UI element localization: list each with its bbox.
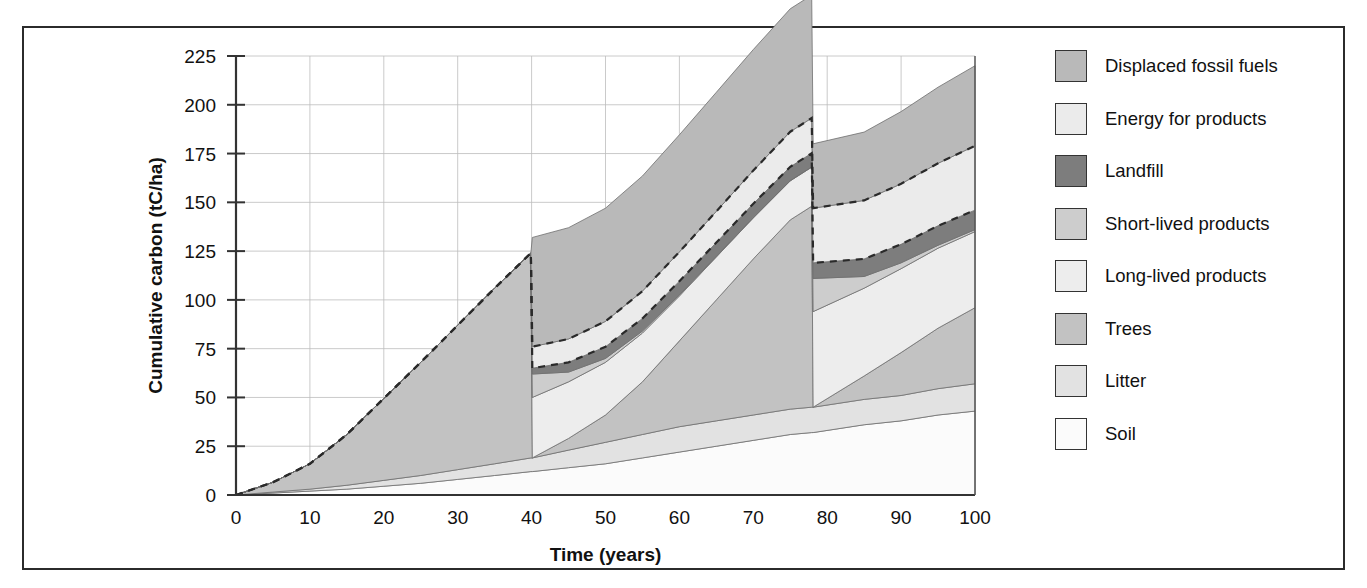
x-tick-label: 30 xyxy=(447,507,468,528)
x-tick-label: 70 xyxy=(743,507,764,528)
legend-swatch-soil xyxy=(1055,418,1087,450)
x-axis-title: Time (years) xyxy=(550,544,662,565)
legend-item[interactable]: Landfill xyxy=(1055,145,1345,198)
x-tick-label: 40 xyxy=(521,507,542,528)
y-tick-label: 100 xyxy=(184,290,216,311)
x-tick-label: 80 xyxy=(817,507,838,528)
y-tick-label: 125 xyxy=(184,241,216,262)
legend-swatch-energy-for-products xyxy=(1055,103,1087,135)
legend-label-short-lived-products: Short-lived products xyxy=(1105,213,1270,235)
y-tick-label: 200 xyxy=(184,95,216,116)
legend-swatch-short-lived-products xyxy=(1055,208,1087,240)
legend-item[interactable]: Long-lived products xyxy=(1055,250,1345,303)
x-tick-label: 0 xyxy=(231,507,242,528)
y-tick-label: 175 xyxy=(184,144,216,165)
legend-label-litter: Litter xyxy=(1105,370,1146,392)
legend-item[interactable]: Displaced fossil fuels xyxy=(1055,40,1345,93)
x-tick-label: 20 xyxy=(373,507,394,528)
y-tick-label: 25 xyxy=(195,436,216,457)
legend-swatch-displaced-fossil-fuels xyxy=(1055,50,1087,82)
legend-swatch-litter xyxy=(1055,365,1087,397)
legend-label-energy-for-products: Energy for products xyxy=(1105,108,1266,130)
legend-label-displaced-fossil-fuels: Displaced fossil fuels xyxy=(1105,55,1278,77)
legend-label-long-lived-products: Long-lived products xyxy=(1105,265,1266,287)
legend-item[interactable]: Litter xyxy=(1055,355,1345,408)
legend-label-landfill: Landfill xyxy=(1105,160,1164,182)
y-axis-title: Cumulative carbon (tC/ha) xyxy=(145,157,166,393)
x-tick-label: 10 xyxy=(299,507,320,528)
y-tick-label: 225 xyxy=(184,46,216,67)
y-tick-label: 150 xyxy=(184,192,216,213)
legend-item[interactable]: Energy for products xyxy=(1055,93,1345,146)
legend-swatch-landfill xyxy=(1055,155,1087,187)
legend-item[interactable]: Trees xyxy=(1055,303,1345,356)
y-tick-label: 0 xyxy=(205,485,216,506)
figure-container: 0255075100125150175200225010203040506070… xyxy=(0,0,1367,588)
legend-swatch-long-lived-products xyxy=(1055,260,1087,292)
legend-label-trees: Trees xyxy=(1105,318,1152,340)
x-tick-label: 100 xyxy=(959,507,991,528)
y-tick-label: 50 xyxy=(195,387,216,408)
legend-label-soil: Soil xyxy=(1105,423,1136,445)
y-tick-label: 75 xyxy=(195,339,216,360)
x-tick-label: 60 xyxy=(669,507,690,528)
chart-legend: Displaced fossil fuels Energy for produc… xyxy=(1055,40,1345,460)
x-tick-label: 50 xyxy=(595,507,616,528)
legend-item[interactable]: Soil xyxy=(1055,408,1345,461)
x-tick-label: 90 xyxy=(891,507,912,528)
legend-swatch-trees xyxy=(1055,313,1087,345)
legend-item[interactable]: Short-lived products xyxy=(1055,198,1345,251)
